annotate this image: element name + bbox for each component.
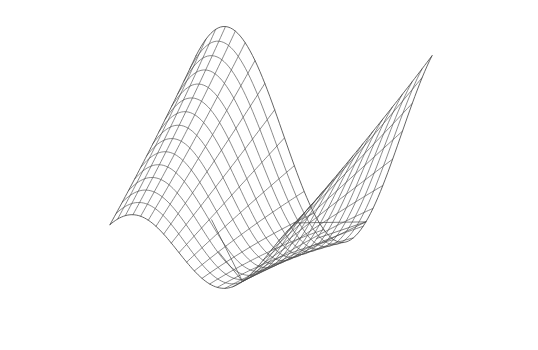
caption-fragment — [0, 338, 538, 350]
figure-root — [0, 0, 538, 350]
plot-background — [0, 0, 538, 350]
wireframe-surface-plot — [0, 0, 538, 350]
